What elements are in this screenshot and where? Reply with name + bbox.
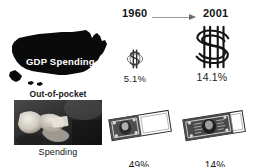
gdp-1960-cell: 5.1%: [110, 48, 160, 84]
dollar-sign-icon: [124, 48, 146, 70]
arrow-head: [189, 14, 196, 20]
out-of-pocket-1960-cell: 49%: [104, 108, 180, 167]
dollar-bill-icon: [104, 108, 176, 142]
column-header-2001: 2001: [203, 7, 228, 19]
out-of-pocket-2001-value: 14%: [176, 160, 254, 167]
out-of-pocket-2001-cell: 14%: [180, 108, 254, 167]
photo-content: [14, 100, 102, 145]
right-arrow-icon: [152, 14, 198, 21]
spending-label: Spending: [14, 147, 102, 157]
infographic-canvas: 1960 2001 GDP Spending 5.1%: [0, 0, 254, 167]
column-header-1960: 1960: [122, 7, 147, 19]
gdp-2001-cell: 14.1%: [176, 24, 248, 83]
hands-exchanging-money-photo: [14, 100, 102, 145]
gdp-spending-row-label: GDP Spending: [6, 26, 110, 88]
dollar-bill-icon: [180, 108, 250, 142]
gdp-1960-value: 5.1%: [110, 73, 160, 84]
out-of-pocket-row-label: Out-of-pocket: [14, 89, 102, 167]
out-of-pocket-label: Out-of-pocket: [14, 89, 102, 99]
out-of-pocket-1960-value: 49%: [98, 160, 180, 167]
gdp-spending-label: GDP Spending: [26, 56, 95, 67]
gdp-2001-value: 14.1%: [176, 71, 248, 83]
dollar-sign-icon: [183, 24, 241, 70]
arrow-shaft: [152, 17, 190, 18]
